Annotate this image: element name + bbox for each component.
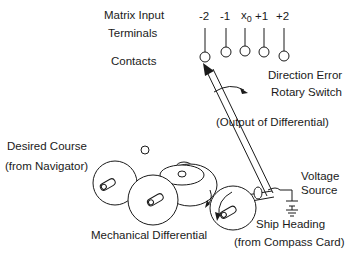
label-from-navigator: (from Navigator) (5, 160, 88, 173)
label-mechanical-differential: Mechanical Differential (91, 229, 207, 242)
terminal-label-x0: x0 (241, 9, 252, 26)
terminal-label-minus-1: -1 (220, 10, 230, 23)
label-rotary-switch: Rotary Switch (271, 86, 342, 99)
terminal-label-x0-sub: 0 (247, 14, 252, 24)
terminal-label-plus-1: +1 (255, 10, 268, 23)
ship-heading-gear (210, 186, 262, 230)
terminal-label-minus-2: -2 (199, 10, 209, 23)
differential-main-gear (128, 175, 178, 225)
label-direction-error: Direction Error (268, 69, 342, 82)
terminal-contacts (200, 28, 289, 62)
label-from-compass-card: (from Compass Card) (234, 236, 345, 249)
label-voltage: Voltage (301, 170, 339, 183)
label-desired-course: Desired Course (7, 140, 87, 153)
label-terminals: Terminals (108, 27, 157, 40)
label-output-of-differential: (Output of Differential) (216, 116, 329, 129)
label-ship-heading: Ship Heading (256, 218, 325, 231)
label-matrix-input: Matrix Input (104, 9, 164, 22)
label-contacts: Contacts (111, 55, 156, 68)
label-source: Source (301, 184, 337, 197)
rotation-arrow (214, 86, 248, 94)
terminal-label-plus-2: +2 (276, 10, 289, 23)
arm-arrowhead-icon (203, 63, 214, 76)
